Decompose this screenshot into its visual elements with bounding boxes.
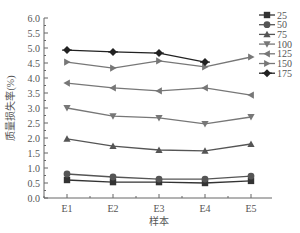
series-175 <box>62 46 210 66</box>
y-tick-label: 3.0 <box>28 103 41 114</box>
y-tick-label: 4.5 <box>28 58 41 69</box>
legend-label: 175 <box>277 68 292 79</box>
y-tick-label: 2.5 <box>28 118 41 129</box>
y-tick-label: 1.0 <box>28 163 41 174</box>
line-chart: 0.00.51.01.52.02.53.03.54.04.55.05.56.0 … <box>0 0 300 233</box>
y-tick-label: 4.0 <box>28 73 41 84</box>
y-tick-label: 2.0 <box>28 133 41 144</box>
x-tick-label: E2 <box>107 203 118 214</box>
x-tick-label: E4 <box>199 203 210 214</box>
x-axis-ticks: E1E2E3E4E5 <box>44 194 257 214</box>
x-tick-label: E3 <box>153 203 164 214</box>
y-tick-label: 6.0 <box>28 13 41 24</box>
x-tick-label: E5 <box>245 203 256 214</box>
y-axis-ticks: 0.00.51.01.52.02.53.03.54.04.55.05.56.0 <box>28 13 49 204</box>
axes <box>44 18 272 198</box>
legend-item-175: 175 <box>259 68 292 79</box>
y-tick-label: 3.5 <box>28 88 41 99</box>
y-tick-label: 0.5 <box>28 178 41 189</box>
y-axis-label: 质量损失率(%) <box>4 76 17 141</box>
series-125 <box>63 80 253 99</box>
y-tick-label: 0.0 <box>28 193 41 204</box>
series-lines <box>62 46 255 186</box>
series-100 <box>63 105 254 127</box>
y-tick-label: 5.0 <box>28 43 41 54</box>
y-tick-label: 5.5 <box>28 28 41 39</box>
x-axis-label: 样本 <box>149 215 169 227</box>
legend: 255075100125150175 <box>259 10 292 79</box>
y-tick-label: 1.5 <box>28 148 41 159</box>
x-tick-label: E1 <box>61 203 72 214</box>
series-75 <box>63 135 254 153</box>
